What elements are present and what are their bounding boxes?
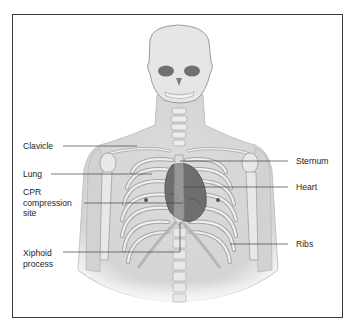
label-sternum: Sternum <box>296 156 328 167</box>
right-nipple-dot <box>216 198 220 202</box>
label-text: Ribs <box>296 239 313 249</box>
label-text: Lung <box>23 169 42 179</box>
label-text: process <box>23 259 53 270</box>
label-text: Sternum <box>296 156 328 166</box>
label-text: site <box>23 208 72 219</box>
label-text: Clavicle <box>23 141 53 151</box>
sternum-bone <box>174 155 184 226</box>
label-text: compression <box>23 198 72 209</box>
label-text: CPR <box>23 187 72 198</box>
label-xiphoid-process: Xiphoid process <box>23 248 53 269</box>
left-nipple-dot <box>144 198 148 202</box>
cervical-spine <box>171 108 187 146</box>
label-clavicle: Clavicle <box>23 141 53 152</box>
label-text: Heart <box>296 182 317 192</box>
skull <box>148 25 213 103</box>
lower-spine <box>173 228 186 302</box>
label-lung: Lung <box>23 169 42 180</box>
label-ribs: Ribs <box>296 239 313 250</box>
label-text: Xiphoid <box>23 248 53 259</box>
label-cpr-compression-site: CPR compression site <box>23 187 72 219</box>
label-heart: Heart <box>296 182 317 193</box>
